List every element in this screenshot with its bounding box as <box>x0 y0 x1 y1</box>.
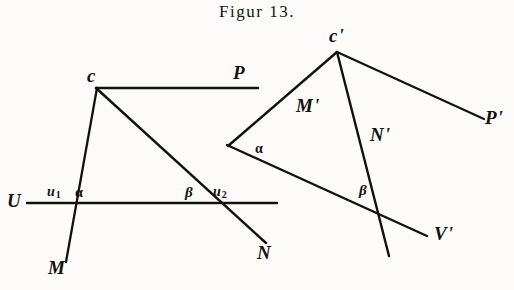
label-ray-p-prime-letter: P <box>485 107 497 128</box>
ray-m <box>66 88 97 262</box>
label-ray-n-prime-mark: ' <box>384 124 390 145</box>
ray-p-prime <box>337 52 484 119</box>
label-point-u1-subscript: 1 <box>55 189 61 200</box>
label-point-u2-letter: u <box>213 184 221 199</box>
label-ray-p-prime: P' <box>485 108 503 127</box>
label-angle-beta-left: β <box>185 185 193 200</box>
label-point-u2-subscript: 2 <box>221 189 227 200</box>
figure-root: Figur 13. c P U u1 α β u2 M N c' M' N' P… <box>0 0 514 290</box>
label-ray-n-prime-letter: N <box>370 124 384 145</box>
label-ray-n: N <box>257 243 271 262</box>
label-point-u1: u1 <box>47 185 61 200</box>
label-line-p: P <box>233 63 245 82</box>
label-line-v-prime-letter: V <box>434 223 447 244</box>
label-ray-m-prime-mark: ' <box>313 95 319 116</box>
ray-n <box>96 88 266 243</box>
label-line-v-prime: V' <box>434 224 453 243</box>
label-point-u1-letter: u <box>47 184 55 199</box>
label-ray-m: M <box>48 258 65 277</box>
label-angle-beta-right: β <box>359 183 367 198</box>
label-point-c-prime: c' <box>329 26 344 45</box>
label-ray-m-prime-letter: M <box>296 95 313 116</box>
label-line-v-prime-mark: ' <box>447 223 453 244</box>
ray-n-prime <box>337 52 389 256</box>
label-point-c: c <box>87 66 95 85</box>
label-ray-n-prime: N' <box>370 125 390 144</box>
label-ray-m-prime: M' <box>296 96 319 115</box>
label-line-u: U <box>7 191 21 210</box>
label-angle-alpha-right: α <box>255 142 263 156</box>
line-v-prime <box>227 145 427 236</box>
label-point-u2: u2 <box>213 185 227 200</box>
label-point-c-prime-mark: ' <box>337 25 343 46</box>
label-angle-alpha-left: α <box>75 186 83 200</box>
label-ray-p-prime-mark: ' <box>497 107 503 128</box>
